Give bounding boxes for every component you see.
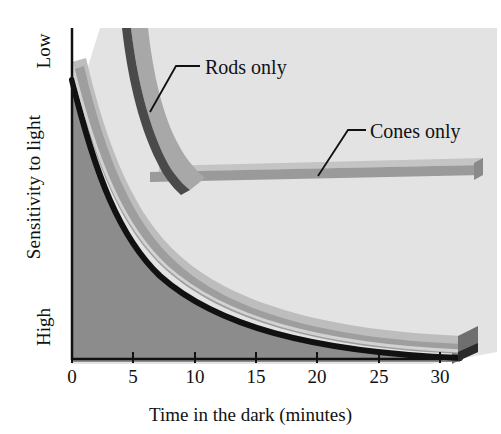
x-axis-tick-25: 25 [359, 366, 399, 388]
y-axis-tick-high: High [33, 295, 55, 359]
x-axis-title: Time in the dark (minutes) [0, 404, 501, 426]
x-axis-tick-15: 15 [236, 366, 276, 388]
x-axis-tick-30: 30 [420, 366, 460, 388]
annotation-cones-only: Cones only [370, 120, 461, 143]
annotation-rods-only: Rods only [205, 56, 287, 79]
y-axis-title: Sensitivity to light [23, 57, 45, 317]
figure-root: Sensitivity to light Low High 0 5 10 15 … [0, 0, 501, 434]
x-axis-tick-10: 10 [175, 366, 215, 388]
x-axis-tick-5: 5 [113, 366, 153, 388]
x-axis-tick-20: 20 [297, 366, 337, 388]
y-axis-tick-low: Low [33, 21, 55, 81]
x-axis-tick-0: 0 [52, 366, 92, 388]
